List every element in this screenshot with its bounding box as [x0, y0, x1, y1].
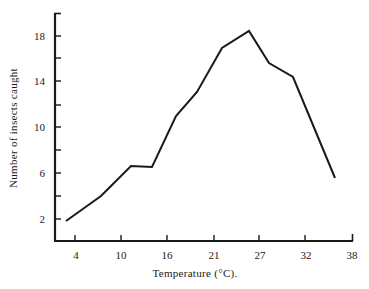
x-tick-label: 27 [255, 249, 267, 261]
y-tick-label: 10 [34, 121, 46, 133]
data-line [66, 31, 335, 221]
y-tick-label: 2 [40, 213, 46, 225]
cut-off-caption [120, 283, 369, 289]
x-tick-label: 38 [347, 249, 359, 261]
line-chart: 2 6 10 14 18 4 10 16 21 27 32 38 Tempera… [0, 0, 369, 289]
y-tick-label: 6 [40, 167, 46, 179]
y-axis-title: Number of insects caught [7, 68, 19, 188]
y-tick-label: 18 [34, 30, 46, 42]
y-tick-labels: 2 6 10 14 18 [34, 30, 46, 225]
axes [54, 13, 353, 241]
x-tick-label: 4 [73, 249, 79, 261]
x-tick-label: 32 [301, 249, 312, 261]
x-tick-labels: 4 10 16 21 27 32 38 [73, 249, 358, 261]
x-tick-label: 10 [116, 249, 128, 261]
x-tick-label: 16 [162, 249, 174, 261]
x-tick-label: 21 [209, 249, 220, 261]
y-tick-label: 14 [34, 75, 46, 87]
x-axis-title: Temperature (°C). [152, 267, 237, 280]
